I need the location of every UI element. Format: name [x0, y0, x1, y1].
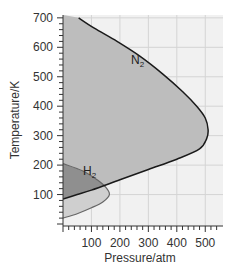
x-axis-title: Pressure/atm — [104, 251, 175, 265]
svg-text:500: 500 — [33, 70, 53, 84]
svg-text:100: 100 — [81, 236, 101, 250]
svg-text:400: 400 — [167, 236, 187, 250]
svg-text:200: 200 — [33, 158, 53, 172]
y-axis-title: Temperature/K — [8, 81, 22, 160]
inversion-temperature-chart: 100200300400500100200300400500600700 Pre… — [0, 0, 232, 278]
svg-text:300: 300 — [138, 236, 158, 250]
svg-text:400: 400 — [33, 99, 53, 113]
svg-text:700: 700 — [33, 11, 53, 25]
svg-text:500: 500 — [195, 236, 215, 250]
svg-text:200: 200 — [110, 236, 130, 250]
svg-text:300: 300 — [33, 129, 53, 143]
svg-text:100: 100 — [33, 188, 53, 202]
svg-text:600: 600 — [33, 40, 53, 54]
